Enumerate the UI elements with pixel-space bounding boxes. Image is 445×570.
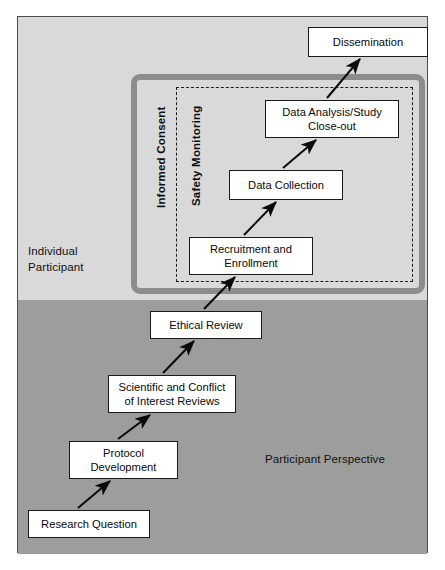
enclosure-label-informed-consent: Informed Consent [155,106,167,208]
node-scientific-and-conflict-of-interest-reviews[interactable]: Scientific and Conflict of Interest Revi… [108,375,236,413]
node-ethical-review[interactable]: Ethical Review [150,311,262,339]
region-label-individual-participant: Individual Participant [28,244,83,275]
node-protocol-development[interactable]: Protocol Development [69,441,178,479]
region-label-participant-perspective: Participant Perspective [265,452,385,468]
node-data-analysis-study-close-out[interactable]: Data Analysis/Study Close-out [265,100,399,138]
node-dissemination[interactable]: Dissemination [308,27,428,57]
node-data-collection[interactable]: Data Collection [229,170,343,200]
node-recruitment-and-enrollment[interactable]: Recruitment and Enrollment [189,237,313,275]
node-research-question[interactable]: Research Question [28,510,150,538]
enclosure-label-safety-monitoring: Safety Monitoring [190,105,202,206]
process-flow-diagram: Individual Participant Participant Persp… [0,0,445,570]
